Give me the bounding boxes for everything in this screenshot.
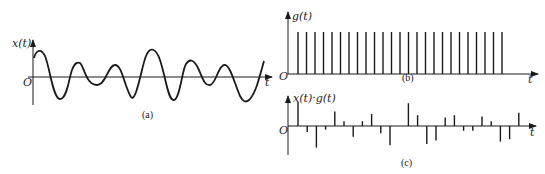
caption-a: (a) xyxy=(142,109,153,121)
y-axis-label: x(t)·g(t) xyxy=(293,92,336,105)
y-axis-label: x(t) xyxy=(12,37,31,50)
sampling-diagram: x(t) O t (a) g(t) O t (b) x(t)·g(t) O t … xyxy=(0,0,545,174)
origin-label: O xyxy=(279,124,288,137)
signal-curve xyxy=(34,50,264,102)
panel-b-impulse-train: g(t) O t (b) xyxy=(279,10,538,86)
caption-c: (c) xyxy=(401,157,412,169)
x-axis-label: t xyxy=(530,126,535,139)
origin-label: O xyxy=(23,76,32,89)
x-axis-label: t xyxy=(265,76,270,89)
panel-c-sampled-signal: x(t)·g(t) O t (c) xyxy=(279,92,536,169)
origin-label: O xyxy=(279,70,288,83)
y-axis-label: g(t) xyxy=(292,10,312,23)
caption-b: (b) xyxy=(402,72,414,84)
x-axis-label: t xyxy=(528,73,533,86)
panel-a-continuous-signal: x(t) O t (a) xyxy=(12,37,272,121)
sampled-impulses xyxy=(298,102,519,148)
impulse-train xyxy=(298,32,502,74)
